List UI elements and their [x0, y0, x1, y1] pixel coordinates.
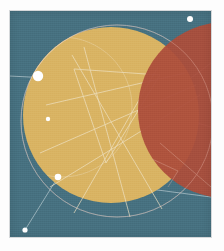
node-top-right — [187, 16, 193, 22]
artwork-canvas — [10, 11, 211, 237]
composition-svg — [10, 11, 211, 237]
node-bottom-corner — [22, 227, 27, 232]
node-lower-left — [55, 174, 62, 181]
node-upper-left — [33, 71, 43, 81]
artboard — [0, 0, 224, 251]
node-mid-left — [46, 117, 50, 121]
